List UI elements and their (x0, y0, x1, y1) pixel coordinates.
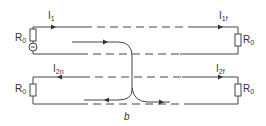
label-r-bottom-right: R (243, 83, 250, 94)
label-r-top-right-sub: 0 (250, 39, 254, 46)
label-i2f-sub: 2f (219, 68, 225, 75)
svg-text:R0: R0 (243, 83, 254, 95)
label-r-bottom-right-sub: 0 (250, 88, 254, 95)
label-r-bottom-left-sub: 0 (22, 88, 26, 95)
label-i1f-sub: 1f (222, 15, 228, 22)
arrow-forward-wave-icon (103, 40, 108, 45)
arrow-i1-icon (51, 25, 56, 30)
arrow-i1f-icon (218, 25, 223, 30)
arrow-i2f-icon (218, 75, 223, 80)
label-r-bottom-left: R (15, 83, 22, 94)
label-r-top-right: R (243, 34, 250, 45)
voltage-source-icon (29, 43, 37, 51)
top-line-pair (33, 27, 238, 54)
bottom-line-pair (33, 77, 238, 104)
arrow-i2n-icon (57, 75, 62, 80)
svg-text:R0: R0 (15, 83, 26, 95)
resistor-bottom-left (30, 84, 36, 96)
resistor-top-left (30, 29, 36, 41)
arrow-near-end-wave-icon (104, 98, 109, 103)
coupling-wave-path (72, 42, 170, 102)
figure-caption: b (124, 111, 130, 122)
svg-text:I2n: I2n (53, 63, 64, 75)
label-i2n-sub: 2n (56, 68, 64, 75)
label-r-top-left-sub: 0 (22, 37, 26, 44)
label-r-top-left: R (15, 32, 22, 43)
svg-text:I1f: I1f (219, 10, 228, 22)
svg-text:I2f: I2f (216, 63, 225, 75)
label-i1-sub: 1 (51, 15, 55, 22)
resistor-top-right (235, 34, 241, 46)
svg-text:R0: R0 (243, 34, 254, 46)
resistor-bottom-right (235, 84, 241, 96)
crosstalk-diagram: I1 I1f I2n I2f R0 R0 R0 R0 b (0, 0, 266, 126)
svg-text:R0: R0 (15, 32, 26, 44)
svg-text:I1: I1 (48, 10, 55, 22)
